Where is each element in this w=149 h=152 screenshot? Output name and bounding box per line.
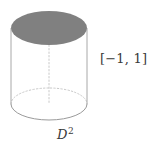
disk-label-base: D: [57, 127, 67, 142]
interval-label: [−1, 1]: [100, 52, 147, 65]
disk-label: D2: [57, 128, 74, 141]
cylinder-figure: [−1, 1] D2: [0, 0, 149, 152]
cylinder-illustration: [0, 0, 149, 152]
disk-label-exponent: 2: [68, 126, 74, 136]
top-disk-fill: [11, 11, 87, 45]
bottom-disk-front-arc: [11, 104, 87, 120]
